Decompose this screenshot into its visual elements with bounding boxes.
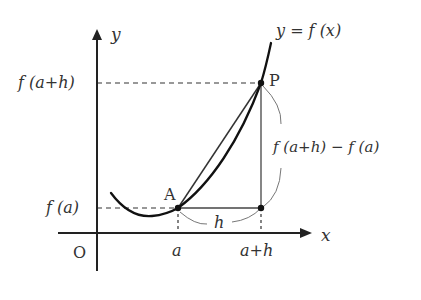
secant-line-AP [178, 83, 261, 208]
origin-label: O [73, 243, 86, 262]
x-axis-label: x [321, 225, 331, 245]
point-P [258, 80, 264, 86]
point-A-label: A [163, 185, 176, 204]
x-tick-a-plus-h: a+h [240, 241, 273, 260]
point-A [175, 205, 181, 211]
vertical-change-label: f (a+h) − f (a) [272, 138, 379, 156]
y-tick-f-a-plus-h: f (a+h) [17, 73, 75, 92]
point-P-label: P [269, 71, 280, 90]
x-axis-arrow-icon [300, 228, 312, 238]
curve-label: y = f (x) [275, 21, 341, 40]
point-corner [258, 205, 264, 211]
x-tick-a: a [172, 241, 182, 260]
y-tick-f-a: f (a) [45, 198, 79, 217]
y-axis-arrow-icon [92, 29, 102, 40]
function-curve [111, 43, 271, 216]
function-graph-diagram: y x O y = f (x) A P f (a+h) f (a) a a+h … [0, 0, 421, 300]
h-label: h [214, 213, 224, 232]
y-axis-label: y [110, 24, 121, 44]
